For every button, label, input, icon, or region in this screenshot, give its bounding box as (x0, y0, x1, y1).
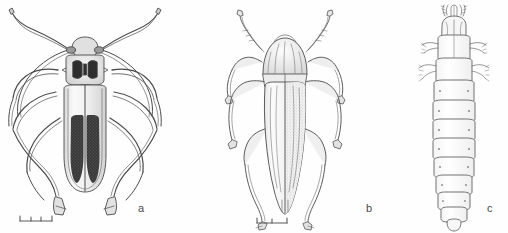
figure-c-larva (400, 0, 508, 233)
panel-label-b: b (366, 203, 372, 214)
illustration-plate: a b c (0, 0, 508, 233)
panel-label-c: c (487, 203, 493, 214)
jewel-beetle-dorsal-icon (170, 0, 400, 233)
panel-label-a: a (138, 203, 144, 214)
longhorn-beetle-dorsal-icon (0, 0, 170, 233)
figure-a-longhorn-beetle (0, 0, 170, 233)
beetle-larva-dorsal-icon (400, 0, 508, 233)
figure-b-jewel-beetle (170, 0, 400, 233)
